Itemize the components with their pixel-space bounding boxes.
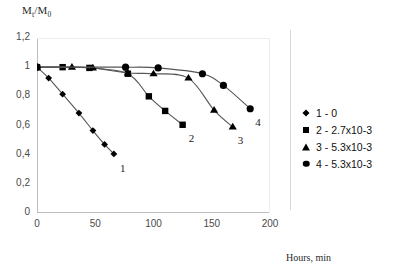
x-axis-tick-label: 0 <box>17 218 57 229</box>
plot-area <box>37 38 270 213</box>
circle-marker <box>122 64 129 71</box>
series-4 <box>37 64 254 113</box>
y-axis-tick-label: 1,2 <box>0 31 30 42</box>
triangle-marker <box>184 74 192 81</box>
circle-marker <box>199 70 206 77</box>
circle-marker <box>247 105 254 112</box>
series-1 <box>37 64 117 158</box>
y-axis-tick-label: 1 <box>0 60 30 71</box>
y-axis-title: Mt/M0 <box>22 4 51 19</box>
x-axis-tick-label: 100 <box>134 218 174 229</box>
curve-end-label-3: 3 <box>238 134 244 146</box>
legend-item-label: 3 - 5.3x10-3 <box>316 141 372 153</box>
series-3 <box>37 63 237 129</box>
legend-item-2: 2 - 2.7x10-3 <box>299 121 372 138</box>
circle-marker <box>220 82 227 89</box>
y-axis-tick-label: 0,4 <box>0 148 30 159</box>
legend-item-label: 1 - 0 <box>316 107 337 119</box>
legend-item-label: 4 - 5.3x10-3 <box>316 158 372 170</box>
diamond-marker <box>299 107 313 119</box>
curve-end-label-1: 1 <box>120 162 126 174</box>
y-axis-tick-label: 0,8 <box>0 89 30 100</box>
y-axis-title-slash-m: /M <box>34 4 47 16</box>
circle-marker <box>299 158 313 170</box>
x-axis-tick-label: 150 <box>192 218 232 229</box>
circle-marker <box>155 64 162 71</box>
y-axis-tick-label: 0,2 <box>0 177 30 188</box>
square-marker <box>146 93 152 99</box>
series-line <box>37 67 183 125</box>
square-marker <box>299 124 313 136</box>
y-axis-title-sub-zero: 0 <box>48 10 52 19</box>
x-axis-title: Hours, min <box>286 252 331 263</box>
legend-divider <box>290 30 291 210</box>
y-axis-tick-label: 0,6 <box>0 119 30 130</box>
curve-end-label-4: 4 <box>255 116 261 128</box>
triangle-marker <box>299 141 313 153</box>
curve-end-label-2: 2 <box>189 132 195 144</box>
triangle-marker <box>68 63 76 70</box>
y-axis-title-m: M <box>22 4 32 16</box>
legend: 1 - 02 - 2.7x10-33 - 5.3x10-34 - 5.3x10-… <box>299 104 372 172</box>
legend-item-label: 2 - 2.7x10-3 <box>316 124 372 136</box>
y-axis-tick-label: 0 <box>0 206 30 217</box>
square-marker <box>162 108 168 114</box>
chart-figure: Mt/M0 1,210,80,60,40,20 050100150200 123… <box>0 0 409 278</box>
legend-item-4: 4 - 5.3x10-3 <box>299 155 372 172</box>
legend-item-3: 3 - 5.3x10-3 <box>299 138 372 155</box>
x-axis-tick-label: 50 <box>75 218 115 229</box>
x-axis-tick-label: 200 <box>250 218 290 229</box>
plot-svg <box>37 38 270 213</box>
square-marker <box>179 122 185 128</box>
legend-item-1: 1 - 0 <box>299 104 372 121</box>
